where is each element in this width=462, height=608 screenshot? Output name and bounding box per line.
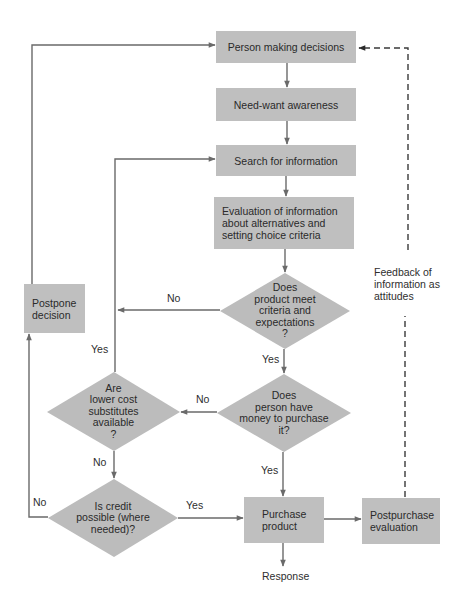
- edge-label-meets-yes: Yes: [262, 353, 279, 365]
- node-substitutes-label: Are lower cost substitutes available ?: [47, 372, 180, 451]
- node-awareness-label: Need-want awareness: [216, 88, 356, 121]
- edge-label-credit-no: No: [33, 496, 46, 508]
- edge-label-credit-yes: Yes: [186, 499, 203, 511]
- node-has-money-label: Does person have money to purchase it?: [217, 374, 351, 452]
- feedback-annotation: Feedback of information as attitudes: [374, 266, 440, 302]
- edge-label-money-yes: Yes: [261, 464, 278, 476]
- node-purchase-label: Purchase product: [244, 497, 324, 543]
- node-search-label: Search for information: [216, 145, 356, 176]
- node-postpurchase-label: Postpurchase evaluation: [362, 498, 440, 544]
- edge-label-meets-no: No: [167, 292, 180, 304]
- node-postpone-label: Postpone decision: [24, 284, 85, 333]
- node-credit-label: Is credit possible (where needed)?: [48, 479, 178, 557]
- node-evaluation-label: Evaluation of information about alternat…: [214, 197, 354, 249]
- node-meets-criteria-label: Does product meet criteria and expectati…: [220, 273, 350, 349]
- edge-substitutes-yes-search: [115, 159, 215, 372]
- node-person-label: Person making decisions: [216, 31, 356, 63]
- edge-postpone-person: [32, 45, 215, 284]
- response-label: Response: [262, 570, 309, 582]
- edge-label-money-no: No: [196, 393, 209, 405]
- edge-credit-no-postpone: [29, 334, 48, 517]
- edge-label-substitutes-no: No: [93, 456, 106, 468]
- edge-label-substitutes-yes: Yes: [91, 343, 108, 355]
- edge-feedback-upper: [359, 48, 408, 250]
